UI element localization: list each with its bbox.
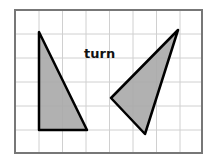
- turn-label: turn: [84, 46, 115, 61]
- grid-diagram: turn: [0, 0, 214, 165]
